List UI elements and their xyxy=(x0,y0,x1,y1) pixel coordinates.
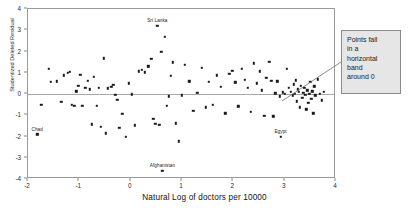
data-point xyxy=(138,70,140,72)
data-point xyxy=(268,60,270,62)
y-tick-label: -4 xyxy=(7,175,21,182)
data-point xyxy=(96,104,98,106)
data-point xyxy=(306,89,308,91)
data-point xyxy=(88,88,90,90)
data-point xyxy=(299,106,301,108)
y-tick-mark xyxy=(24,135,27,136)
data-point xyxy=(259,70,261,72)
data-point xyxy=(301,97,303,99)
x-tick-label: -1 xyxy=(76,182,82,189)
data-point xyxy=(188,80,190,82)
data-point xyxy=(237,105,239,107)
data-point xyxy=(310,97,312,99)
data-point xyxy=(283,92,285,94)
data-point xyxy=(84,86,86,88)
data-point xyxy=(170,75,172,77)
data-point xyxy=(278,95,280,97)
data-point xyxy=(47,68,49,70)
data-point xyxy=(256,82,258,84)
data-point xyxy=(40,104,42,106)
data-point xyxy=(298,91,300,93)
data-point xyxy=(296,100,298,102)
data-point xyxy=(121,112,123,114)
x-tick-mark xyxy=(232,178,233,181)
data-point xyxy=(56,80,58,82)
point-label: Egypt xyxy=(274,129,286,134)
x-tick-label: 4 xyxy=(333,182,337,189)
y-tick-mark xyxy=(24,93,27,94)
x-tick-mark xyxy=(181,178,182,181)
y-tick-label: -1 xyxy=(7,111,21,118)
data-point xyxy=(253,62,255,64)
data-point xyxy=(50,80,52,82)
data-point xyxy=(75,90,77,92)
data-point xyxy=(308,92,310,94)
point-label: Afghanistan xyxy=(150,163,175,168)
data-point xyxy=(63,74,65,76)
y-tick-mark xyxy=(24,156,27,157)
callout-line-3: horizontal xyxy=(347,54,396,63)
data-point xyxy=(134,124,136,126)
data-point xyxy=(204,106,206,108)
data-point xyxy=(300,84,302,86)
data-point xyxy=(90,123,92,125)
data-point xyxy=(263,114,265,116)
data-point xyxy=(247,86,249,88)
y-tick-mark xyxy=(24,178,27,179)
data-point xyxy=(114,94,116,96)
x-tick-label: -2 xyxy=(24,182,30,189)
plot-area: Sri LankaChadAfghanistanEgypt xyxy=(28,9,334,177)
callout-line-4: band xyxy=(347,63,396,72)
data-point xyxy=(240,68,242,70)
data-point xyxy=(322,91,324,93)
y-tick-label: -2 xyxy=(7,132,21,139)
data-point xyxy=(144,71,146,73)
x-tick-mark xyxy=(129,178,130,181)
data-point xyxy=(220,86,222,88)
data-point xyxy=(127,82,129,84)
data-point xyxy=(313,85,315,87)
data-point xyxy=(93,76,95,78)
data-point xyxy=(288,86,290,88)
data-point xyxy=(196,92,198,94)
data-point xyxy=(309,80,311,82)
data-point xyxy=(163,36,165,38)
data-point xyxy=(316,78,318,80)
data-point xyxy=(184,63,186,65)
point-label: Chad xyxy=(32,127,43,132)
data-point xyxy=(167,95,169,97)
data-point xyxy=(103,57,105,59)
data-point xyxy=(112,84,114,86)
data-point xyxy=(307,101,309,103)
data-point xyxy=(192,109,194,111)
data-point xyxy=(165,105,167,107)
data-point xyxy=(265,77,267,79)
callout-line-5: around 0 xyxy=(347,72,396,81)
data-point xyxy=(150,58,152,60)
data-point xyxy=(124,136,126,138)
data-point xyxy=(290,91,292,93)
y-tick-label: -3 xyxy=(7,153,21,160)
point-label: Sri Lanka xyxy=(147,18,167,23)
data-point xyxy=(261,89,263,91)
y-tick-mark xyxy=(24,114,27,115)
data-point xyxy=(295,79,297,81)
data-point xyxy=(161,170,163,172)
data-point xyxy=(86,80,88,82)
data-point xyxy=(200,67,202,69)
x-tick-label: 1 xyxy=(179,182,183,189)
annotation-callout: Points fall in a horizontal band around … xyxy=(341,30,401,94)
data-point xyxy=(105,132,107,134)
data-point xyxy=(116,99,118,101)
data-point xyxy=(69,70,71,72)
data-point xyxy=(147,65,149,67)
data-point xyxy=(154,123,156,125)
data-point xyxy=(141,68,143,70)
chart-root: Sri LankaChadAfghanistanEgypt -2-1012344… xyxy=(0,0,409,213)
data-point xyxy=(320,99,322,101)
x-tick-label: 2 xyxy=(231,182,235,189)
data-point xyxy=(156,24,158,26)
data-point xyxy=(60,100,62,102)
data-point xyxy=(224,112,226,114)
data-point xyxy=(172,61,174,63)
